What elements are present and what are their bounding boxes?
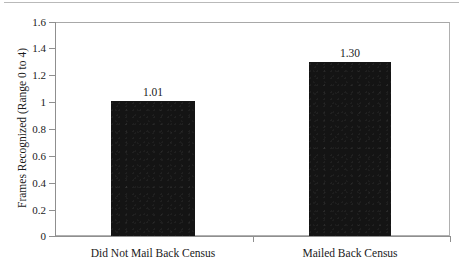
y-axis-tick: [49, 156, 55, 157]
y-axis-tick-label: 0.2: [32, 205, 46, 216]
y-axis-tick: [49, 129, 55, 130]
x-axis-tick: [450, 237, 451, 242]
y-axis-tick: [49, 48, 55, 49]
y-axis-line: [55, 22, 56, 237]
x-axis-tick: [253, 237, 254, 242]
bar-value-label: 1.30: [309, 47, 391, 59]
y-axis-tick: [49, 102, 55, 103]
y-axis-tick-label: 1: [41, 97, 47, 108]
y-axis-tick: [49, 22, 55, 23]
y-axis-tick-label: 0.4: [32, 178, 46, 189]
y-axis-tick: [49, 236, 55, 237]
y-axis-tick: [49, 75, 55, 76]
x-axis-category-label: Mailed Back Census: [275, 247, 425, 260]
y-axis-tick: [49, 210, 55, 211]
page-divider-rule: [4, 2, 459, 3]
y-axis-title: Frames Recognized (Range 0 to 4): [16, 13, 28, 243]
y-axis-tick-label: 0.8: [32, 124, 46, 135]
y-axis-tick: [49, 183, 55, 184]
x-axis-category-label: Did Not Mail Back Census: [68, 247, 238, 260]
bar-chart-figure: Frames Recognized (Range 0 to 4) 1.6 1.4…: [0, 0, 463, 277]
y-axis-tick-label: 1.6: [32, 17, 46, 28]
y-axis-tick-label: 1.2: [32, 70, 46, 81]
y-axis-tick-label: 0.6: [32, 151, 46, 162]
bar-mailed-back-census: [309, 62, 391, 236]
y-axis-tick-label: 1.4: [32, 43, 46, 54]
bar-value-label: 1.01: [111, 86, 195, 98]
y-axis-tick-label: 0: [41, 231, 47, 242]
bar-did-not-mail-back-census: [111, 101, 195, 236]
